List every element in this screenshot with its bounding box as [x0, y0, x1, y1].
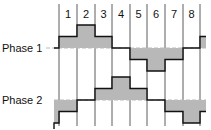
level-fill	[95, 37, 112, 49]
level-fill	[112, 77, 130, 100]
level-fill	[59, 37, 77, 49]
level-fill	[59, 100, 77, 112]
level-fill	[130, 89, 147, 101]
level-fill	[200, 37, 206, 49]
step-number: 2	[83, 8, 89, 20]
phase-waveform-diagram: 12345678 Phase 1 Phase 2	[0, 0, 211, 130]
level-fill	[77, 25, 95, 48]
step-number: 4	[118, 8, 124, 20]
step-number: 5	[135, 8, 141, 20]
phase-1-label: Phase 1	[2, 42, 42, 54]
step-number: 6	[153, 8, 159, 20]
step-number: 8	[188, 8, 194, 20]
level-fill	[165, 100, 183, 112]
level-fill	[165, 48, 183, 60]
level-fill	[54, 100, 59, 123]
level-fill	[147, 48, 165, 71]
level-fill	[130, 48, 147, 60]
level-fill	[95, 89, 112, 101]
step-number: 1	[65, 8, 71, 20]
step-number: 3	[100, 8, 106, 20]
level-fill	[200, 100, 206, 112]
level-fill	[183, 100, 200, 123]
step-number: 7	[171, 8, 177, 20]
phase-2-label: Phase 2	[2, 94, 42, 106]
